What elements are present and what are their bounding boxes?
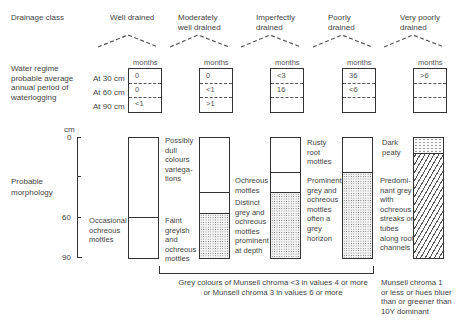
desc-line: ochreous xyxy=(307,195,342,205)
desc-line: Predomi- xyxy=(380,176,414,186)
regime-value: <3 xyxy=(271,69,303,83)
desc-line: dull xyxy=(165,146,193,156)
desc-line: with xyxy=(380,195,414,205)
desc-line: variega- xyxy=(165,165,193,175)
desc-line: ochreous xyxy=(89,226,127,236)
water-regime-line: waterlogging xyxy=(11,93,73,103)
water-regime-line: Water regime xyxy=(11,64,73,74)
regime-value: 0 xyxy=(200,69,232,83)
depth-label-30: At 30 cm xyxy=(93,74,125,84)
desc-line: grey and xyxy=(235,208,269,218)
desc-line: Distinct xyxy=(235,198,269,208)
desc-line: tubes xyxy=(380,224,414,234)
desc-line: streaks or xyxy=(380,214,414,224)
regime-value xyxy=(271,97,303,111)
footnote-line: or Munsell chroma 3 in values 6 or more xyxy=(168,288,378,298)
water-regime-label: Water regime probable average annual per… xyxy=(11,64,73,102)
regime-box-well: 0 0 <1 xyxy=(128,68,162,113)
profile-well-drained xyxy=(128,137,159,259)
footnote-line: 10Y dominant xyxy=(381,307,452,317)
desc-line: along root xyxy=(380,234,414,244)
desc-line: nant grey xyxy=(380,186,414,196)
desc-line: mottles xyxy=(235,227,269,237)
desc-line: ochreous xyxy=(165,245,196,255)
regime-box-imperfectly: <3 16 xyxy=(270,68,304,113)
desc-line: peaty xyxy=(382,148,401,158)
desc-line: often a xyxy=(307,214,342,224)
desc-ochreous-mottles: Ochreous mottles xyxy=(235,176,268,195)
regime-value: <1 xyxy=(200,83,232,97)
desc-line: mottles xyxy=(165,254,196,264)
desc-predominant-grey: Predomi- nant grey with ochreous streaks… xyxy=(380,176,414,253)
months-label: months xyxy=(133,58,158,68)
regime-value: <1 xyxy=(129,97,161,111)
morphology-label: Probable morphology xyxy=(11,176,53,198)
footnote-munsell: Munsell chroma 1 or less or hues bluer t… xyxy=(381,278,452,316)
regime-value: 0 xyxy=(129,69,161,83)
water-regime-line: probable average xyxy=(11,74,73,84)
morphology-line: morphology xyxy=(11,187,53,198)
depth-axis xyxy=(77,137,78,258)
regime-value: >1 xyxy=(200,97,232,111)
regime-box-poorly: 36 <6 xyxy=(342,68,376,113)
footnote-grey-colours: Grey colours of Munsell chroma <3 in val… xyxy=(168,278,378,297)
desc-line: prominent xyxy=(235,236,269,246)
desc-line: colours xyxy=(165,155,193,165)
months-label: months xyxy=(347,58,372,68)
regime-value: 36 xyxy=(343,69,375,83)
desc-line: Rusty xyxy=(307,138,331,148)
profile-very-poorly-drained xyxy=(413,137,444,259)
months-label: months xyxy=(275,58,300,68)
desc-line: root xyxy=(307,148,331,158)
desc-dark-peaty: Dark peaty xyxy=(382,138,401,157)
desc-line: Dark xyxy=(382,138,401,148)
desc-line: mottles xyxy=(89,235,127,245)
desc-line: grey and xyxy=(307,186,342,196)
desc-possibly-dull: Possibly dull colours variega- tions xyxy=(165,136,193,184)
profile-imperfectly-drained xyxy=(270,137,301,259)
axis-tick-mark xyxy=(77,257,82,258)
desc-line: channels xyxy=(380,243,414,253)
desc-line: at depth xyxy=(235,246,269,256)
bracket-right xyxy=(373,266,374,274)
months-label: months xyxy=(204,58,229,68)
desc-line: Occasional xyxy=(89,216,127,226)
footnote-line: than or greener than xyxy=(381,297,452,307)
morphology-line: Probable xyxy=(11,176,53,187)
axis-tick-60: 60 xyxy=(62,213,71,223)
regime-value xyxy=(414,83,446,97)
desc-faint-greyish: Faint greyish and ochreous mottles xyxy=(165,216,196,264)
regime-value xyxy=(343,97,375,111)
depth-label-90: At 90 cm xyxy=(93,102,125,112)
regime-box-very-poorly: >6 xyxy=(413,68,447,113)
desc-rusty-root: Rusty root mottles xyxy=(307,138,331,167)
axis-tick-0: 0 xyxy=(67,133,71,143)
desc-occasional-ochreous: Occasional ochreous mottles xyxy=(89,216,127,245)
profile-moderately-drained xyxy=(199,137,230,259)
regime-value xyxy=(414,97,446,111)
desc-line: ochreous xyxy=(235,217,269,227)
axis-tick-mark xyxy=(77,217,81,218)
regime-value: 16 xyxy=(271,83,303,97)
footnote-line: or less or hues bluer xyxy=(381,288,452,298)
axis-tick-mark xyxy=(77,176,81,177)
desc-prominent-grey: Prominent grey and ochreous mottles ofte… xyxy=(307,176,342,243)
profile-poorly-drained xyxy=(342,137,373,259)
desc-line: greyish xyxy=(165,226,196,236)
desc-line: grey xyxy=(307,224,342,234)
desc-line: Faint xyxy=(165,216,196,226)
desc-line: Possibly xyxy=(165,136,193,146)
water-regime-line: annual period of xyxy=(11,83,73,93)
desc-line: tions xyxy=(165,174,193,184)
bracket-line xyxy=(159,273,374,274)
dashed-roofs xyxy=(0,0,458,60)
regime-value: 0 xyxy=(129,83,161,97)
axis-tick-mark xyxy=(77,137,81,138)
axis-tick-90: 90 xyxy=(62,253,71,263)
desc-line: mottles xyxy=(307,205,342,215)
footnote-line: Grey colours of Munsell chroma <3 in val… xyxy=(168,278,378,288)
desc-line: Ochreous xyxy=(235,176,268,186)
footnote-line: Munsell chroma 1 xyxy=(381,278,452,288)
desc-line: Prominent xyxy=(307,176,342,186)
regime-value: >6 xyxy=(414,69,446,83)
